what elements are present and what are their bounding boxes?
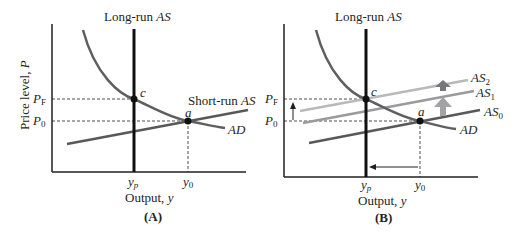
pf-label: PF	[32, 91, 46, 107]
panel-a: Long-run AS Short-run AS AD c a PF P0 yp…	[17, 9, 256, 224]
price-rise-arrowhead	[290, 102, 296, 109]
point-a-label: a	[185, 105, 192, 120]
y0-label: y0	[181, 174, 194, 190]
ad-label: AD	[227, 122, 246, 137]
shift-up-arrow-2	[435, 80, 451, 91]
pf-label: PF	[264, 91, 278, 107]
yp-label: yp	[359, 177, 372, 193]
point-c-label: c	[371, 84, 377, 99]
long-run-as-label: Long-run AS	[104, 9, 171, 24]
panel-b: Long-run AS AS2 AS1 AS0 AD c a PF P0 yp …	[264, 9, 503, 225]
y-axis-label: Price level, P	[17, 60, 32, 130]
x-axis-label: Output, y	[125, 190, 174, 205]
point-c-dot	[363, 96, 370, 103]
ad-curve	[316, 30, 456, 129]
p0-label: P0	[264, 113, 278, 129]
shift-up-arrow-1	[434, 97, 452, 116]
as0-line	[309, 110, 480, 143]
figure: Long-run AS Short-run AS AD c a PF P0 yp…	[0, 0, 521, 234]
as0-label: AS0	[483, 104, 503, 121]
ad-curve	[83, 30, 225, 128]
short-run-as-label: Short-run AS	[188, 93, 256, 108]
as1-label: AS1	[475, 85, 495, 102]
caption-b: (B)	[375, 210, 392, 225]
yp-label: yp	[126, 174, 139, 190]
point-c-dot	[131, 96, 138, 103]
output-fall-arrowhead	[369, 164, 376, 170]
point-c-label: c	[140, 85, 146, 100]
p0-label: P0	[32, 113, 46, 129]
x-axis-label: Output, y	[358, 193, 407, 208]
long-run-as-label: Long-run AS	[335, 9, 402, 24]
caption-a: (A)	[144, 209, 162, 224]
y0-label: y0	[413, 177, 426, 193]
point-a-label: a	[418, 104, 425, 119]
ad-label: AD	[459, 122, 478, 137]
